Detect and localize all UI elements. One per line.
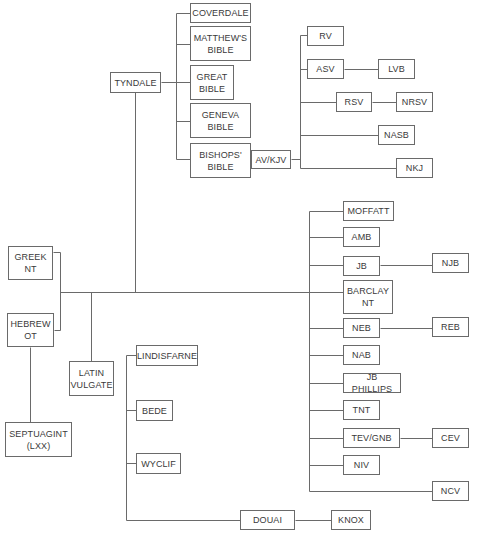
node-tev-gnb: TEV/GNB bbox=[343, 428, 400, 448]
node-label: DOUAI bbox=[253, 514, 282, 526]
node-nrsv: NRSV bbox=[396, 92, 433, 112]
node-label: NAB bbox=[352, 349, 371, 361]
node-label: BEDE bbox=[142, 405, 167, 417]
node-jb-phillips: JB PHILLIPS bbox=[343, 373, 401, 393]
node-label: LATIN VULGATE bbox=[70, 367, 112, 391]
node-nkj: NKJ bbox=[396, 158, 433, 178]
node-knox: KNOX bbox=[331, 510, 371, 530]
node-label: BARCLAY NT bbox=[347, 285, 389, 309]
node-label: TYNDALE bbox=[114, 77, 156, 89]
node-rsv: RSV bbox=[336, 92, 372, 112]
node-label: GREAT BIBLE bbox=[197, 71, 228, 95]
node-label: NIV bbox=[354, 459, 369, 471]
node-cev: CEV bbox=[432, 428, 469, 448]
node-geneva-bible: GENEVA BIBLE bbox=[190, 103, 251, 138]
node-wyclif: WYCLIF bbox=[136, 453, 181, 474]
node-label: GREEK NT bbox=[14, 251, 46, 275]
node-label: JB bbox=[356, 260, 367, 272]
node-coverdale: COVERDALE bbox=[190, 3, 251, 23]
node-label: AV/KJV bbox=[256, 154, 287, 166]
node-label: RV bbox=[319, 30, 332, 42]
node-niv: NIV bbox=[343, 455, 380, 475]
node-label: TNT bbox=[353, 404, 371, 416]
node-septuagint: SEPTUAGINT (LXX) bbox=[5, 422, 72, 457]
node-amb: AMB bbox=[343, 227, 380, 247]
node-great-bible: GREAT BIBLE bbox=[190, 65, 234, 100]
node-bede: BEDE bbox=[136, 400, 173, 421]
node-label: LVB bbox=[388, 63, 405, 75]
node-label: REB bbox=[441, 321, 460, 333]
node-bishops-bible: BISHOPS' BIBLE bbox=[190, 143, 251, 178]
node-label: LINDISFARNE bbox=[137, 350, 197, 362]
bible-translation-tree: GREEK NTHEBREW OTLATIN VULGATESEPTUAGINT… bbox=[0, 0, 478, 542]
node-label: NJB bbox=[442, 257, 459, 269]
node-jb: JB bbox=[343, 256, 380, 276]
node-label: TEV/GNB bbox=[351, 432, 391, 444]
node-tyndale: TYNDALE bbox=[110, 72, 161, 93]
node-asv: ASV bbox=[307, 59, 344, 79]
node-label: WYCLIF bbox=[141, 458, 176, 470]
node-label: NEB bbox=[352, 322, 371, 334]
node-lvb: LVB bbox=[378, 59, 415, 79]
node-ncv: NCV bbox=[432, 481, 469, 501]
node-label: HEBREW OT bbox=[10, 318, 50, 342]
node-greek-nt: GREEK NT bbox=[8, 246, 53, 280]
connector-lines bbox=[0, 0, 478, 542]
node-label: MOFFATT bbox=[347, 205, 389, 217]
node-label: JB PHILLIPS bbox=[346, 371, 398, 395]
node-label: BISHOPS' BIBLE bbox=[199, 149, 242, 173]
node-tnt: TNT bbox=[343, 400, 380, 420]
node-label: RSV bbox=[345, 96, 364, 108]
node-label: MATTHEW'S BIBLE bbox=[194, 32, 247, 56]
node-label: NASB bbox=[384, 129, 409, 141]
node-label: KNOX bbox=[338, 514, 364, 526]
node-label: NCV bbox=[441, 485, 460, 497]
node-label: NRSV bbox=[402, 96, 427, 108]
node-reb: REB bbox=[432, 317, 469, 337]
node-barclay-nt: BARCLAY NT bbox=[343, 280, 393, 314]
node-matthews-bible: MATTHEW'S BIBLE bbox=[190, 26, 251, 61]
node-label: AMB bbox=[352, 231, 372, 243]
node-moffatt: MOFFATT bbox=[343, 201, 394, 221]
node-nab: NAB bbox=[343, 345, 380, 365]
node-njb: NJB bbox=[432, 253, 469, 273]
node-lindisfarne: LINDISFARNE bbox=[136, 345, 198, 366]
node-neb: NEB bbox=[343, 318, 380, 338]
node-rv: RV bbox=[307, 26, 344, 46]
node-label: COVERDALE bbox=[192, 7, 248, 19]
node-nasb: NASB bbox=[378, 125, 415, 145]
node-latin-vulgate: LATIN VULGATE bbox=[69, 361, 114, 396]
node-label: CEV bbox=[441, 432, 460, 444]
node-hebrew-ot: HEBREW OT bbox=[7, 313, 54, 347]
node-douai: DOUAI bbox=[240, 510, 295, 530]
node-label: SEPTUAGINT (LXX) bbox=[9, 428, 68, 452]
node-av-kjv: AV/KJV bbox=[251, 150, 291, 169]
node-label: NKJ bbox=[406, 162, 423, 174]
node-label: GENEVA BIBLE bbox=[202, 109, 239, 133]
node-label: ASV bbox=[316, 63, 334, 75]
